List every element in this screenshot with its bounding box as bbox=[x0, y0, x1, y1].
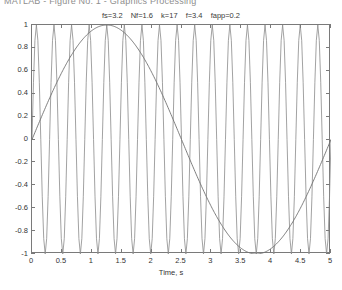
y-tick-label: 0.4 bbox=[0, 88, 28, 97]
x-tick-label: 2.5 bbox=[166, 256, 196, 265]
y-tick-label: 0.6 bbox=[0, 65, 28, 74]
y-tick-right bbox=[326, 184, 330, 185]
y-tick-right bbox=[326, 207, 330, 208]
param-k: k=17 bbox=[161, 11, 177, 20]
x-tick bbox=[121, 249, 122, 253]
y-tick-label: 0.2 bbox=[0, 111, 28, 120]
y-tick-label: -0.4 bbox=[0, 180, 28, 189]
y-tick-label: -0.2 bbox=[0, 157, 28, 166]
y-tick bbox=[31, 230, 35, 231]
x-tick-top bbox=[121, 24, 122, 28]
y-tick-right bbox=[326, 253, 330, 254]
window-title: MATLAB - Figure No. 1 - Graphics Process… bbox=[4, 0, 197, 6]
x-tick bbox=[270, 249, 271, 253]
y-tick-label: -0.6 bbox=[0, 203, 28, 212]
x-tick-top bbox=[270, 24, 271, 28]
x-tick-label: 1.5 bbox=[106, 256, 136, 265]
x-tick-top bbox=[240, 24, 241, 28]
x-tick-top bbox=[61, 24, 62, 28]
y-tick-right bbox=[326, 116, 330, 117]
slow-signal-trace bbox=[32, 25, 331, 254]
y-tick-right bbox=[326, 230, 330, 231]
signal-plot bbox=[32, 25, 331, 254]
y-tick-label: -0.8 bbox=[0, 226, 28, 235]
x-tick-label: 4.5 bbox=[285, 256, 315, 265]
x-tick-top bbox=[300, 24, 301, 28]
x-tick bbox=[61, 249, 62, 253]
plot-parameter-annotation: fs=3.2 Nf=1.6 k=17 f=3.4 fapp=0.2 bbox=[0, 11, 342, 20]
y-tick bbox=[31, 161, 35, 162]
x-tick-label: 3.5 bbox=[225, 256, 255, 265]
y-tick bbox=[31, 139, 35, 140]
x-tick-label: 3 bbox=[195, 256, 225, 265]
x-tick bbox=[31, 249, 32, 253]
y-tick bbox=[31, 184, 35, 185]
param-fapp: fapp=0.2 bbox=[211, 11, 240, 20]
y-tick bbox=[31, 47, 35, 48]
y-tick-label: 0 bbox=[0, 134, 28, 143]
y-tick bbox=[31, 70, 35, 71]
x-tick bbox=[240, 249, 241, 253]
x-tick-top bbox=[91, 24, 92, 28]
x-tick-top bbox=[330, 24, 331, 28]
param-nf: Nf=1.6 bbox=[131, 11, 153, 20]
plot-area bbox=[31, 24, 330, 253]
x-tick-label: 4 bbox=[255, 256, 285, 265]
y-tick-label: 0.8 bbox=[0, 42, 28, 51]
y-tick bbox=[31, 93, 35, 94]
x-tick-top bbox=[151, 24, 152, 28]
x-tick bbox=[330, 249, 331, 253]
x-tick-top bbox=[210, 24, 211, 28]
y-tick bbox=[31, 207, 35, 208]
param-fs: fs=3.2 bbox=[102, 11, 123, 20]
figure-window: MATLAB - Figure No. 1 - Graphics Process… bbox=[0, 0, 342, 290]
x-tick-label: 0 bbox=[16, 256, 46, 265]
x-tick bbox=[300, 249, 301, 253]
y-tick-right bbox=[326, 47, 330, 48]
y-tick-right bbox=[326, 93, 330, 94]
x-tick-label: 0.5 bbox=[46, 256, 76, 265]
x-tick bbox=[210, 249, 211, 253]
y-tick bbox=[31, 253, 35, 254]
y-tick-label: 1 bbox=[0, 20, 28, 29]
x-tick-top bbox=[181, 24, 182, 28]
x-tick-top bbox=[31, 24, 32, 28]
y-tick-right bbox=[326, 70, 330, 71]
x-tick-label: 5 bbox=[315, 256, 342, 265]
y-tick bbox=[31, 116, 35, 117]
x-tick-label: 2 bbox=[136, 256, 166, 265]
y-tick-right bbox=[326, 161, 330, 162]
x-tick-label: 1 bbox=[76, 256, 106, 265]
x-tick bbox=[151, 249, 152, 253]
param-f: f=3.4 bbox=[186, 11, 203, 20]
y-tick-right bbox=[326, 139, 330, 140]
x-axis-title: Time, s bbox=[0, 268, 342, 277]
x-tick bbox=[181, 249, 182, 253]
x-tick bbox=[91, 249, 92, 253]
window-titlebar: MATLAB - Figure No. 1 - Graphics Process… bbox=[0, 0, 342, 9]
